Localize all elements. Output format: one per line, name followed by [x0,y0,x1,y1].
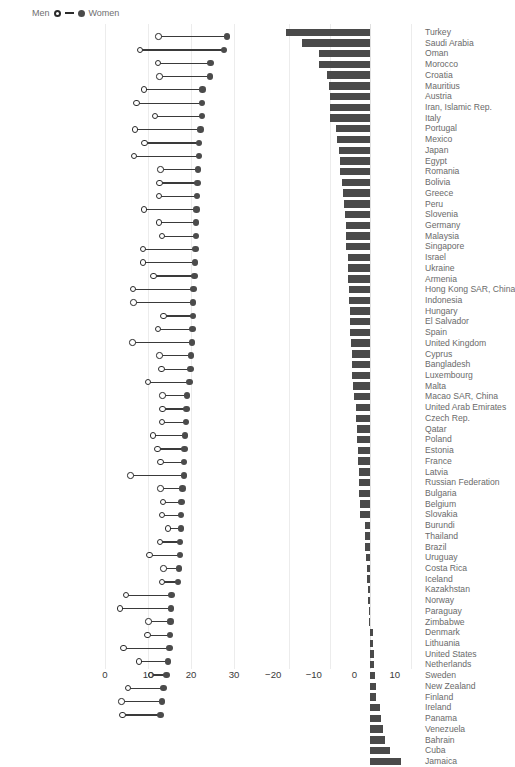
bar[interactable] [369,618,370,625]
bar-row[interactable]: Iceland [273,574,419,585]
bar-row[interactable]: Italy [273,113,419,124]
dumbbell-marker-men[interactable] [157,166,163,172]
dumbbell-marker-men[interactable] [155,326,161,332]
dumbbell-row[interactable]: Thailand [105,708,247,721]
bar[interactable] [360,511,370,518]
dumbbell-row[interactable]: Estonia [105,416,247,429]
dumbbell-marker-women[interactable] [190,286,196,292]
dumbbell-marker-women[interactable] [199,100,205,106]
dumbbell-row[interactable]: Algeria [105,97,247,110]
bar-row[interactable]: Egypt [273,156,419,167]
dumbbell-row[interactable]: Netherlands [105,615,247,628]
bar-row[interactable]: Brazil [273,542,419,553]
bar[interactable] [348,275,370,282]
bar-row[interactable]: Norway [273,595,419,606]
dumbbell-marker-men[interactable] [157,539,163,545]
bar[interactable] [360,500,371,507]
dumbbell-row[interactable]: Qatar [105,655,247,668]
bar-row[interactable]: Zimbabwe [273,617,419,628]
bar[interactable] [329,82,371,89]
dumbbell-row[interactable]: Germany [105,535,247,548]
dumbbell-row[interactable]: Italy [105,203,247,216]
dumbbell-marker-women[interactable] [187,366,193,372]
dumbbell-marker-men[interactable] [159,233,165,239]
bar[interactable] [368,597,370,604]
bar[interactable] [352,350,371,357]
bar-row[interactable]: Paraguay [273,606,419,617]
dumbbell-marker-women[interactable] [195,166,201,172]
dumbbell-marker-men[interactable] [157,459,163,465]
dumbbell-marker-men[interactable] [156,180,162,186]
bar[interactable] [370,758,401,765]
dumbbell-row[interactable]: Guatemala [105,43,247,56]
bar[interactable] [337,136,370,143]
dumbbell-marker-women[interactable] [193,219,199,225]
bar-row[interactable]: Spain [273,327,419,338]
dumbbell-marker-men[interactable] [140,259,146,265]
dumbbell-marker-women[interactable] [176,565,182,571]
bar-row[interactable]: Turkey [273,27,419,38]
dumbbell-row[interactable]: Spain [105,323,247,336]
bar[interactable] [345,211,370,218]
dumbbell-marker-women[interactable] [182,432,188,438]
dumbbell-row[interactable]: Korea, Rep. [105,642,247,655]
dumbbell-marker-women[interactable] [168,592,174,598]
dumbbell-marker-women[interactable] [221,47,227,53]
bar[interactable] [339,147,371,154]
bar-row[interactable]: Israel [273,252,419,263]
bar[interactable] [346,222,371,229]
bar[interactable] [367,575,370,582]
bar[interactable] [350,307,371,314]
bar-row[interactable]: Singapore [273,241,419,252]
bar[interactable] [286,29,370,36]
bar-row[interactable]: Hong Kong SAR, China [273,284,419,295]
dumbbell-marker-women[interactable] [194,193,200,199]
dumbbell-marker-women[interactable] [179,485,185,491]
dumbbell-marker-women[interactable] [192,259,198,265]
bar-row[interactable]: Bahrain [273,735,419,746]
dumbbell-marker-men[interactable] [133,100,139,106]
bar[interactable] [370,715,381,722]
dumbbell-row[interactable]: Finland [105,575,247,588]
bar[interactable] [368,586,370,593]
dumbbell-row[interactable]: Switzerland [105,402,247,415]
bar-row[interactable]: Slovakia [273,509,419,520]
dumbbell-marker-women[interactable] [190,313,196,319]
dumbbell-marker-men[interactable] [132,126,138,132]
dumbbell-marker-women[interactable] [186,379,192,385]
bar-row[interactable]: Macao SAR, China [273,391,419,402]
dumbbell-marker-men[interactable] [155,33,161,39]
bar[interactable] [343,189,371,196]
dumbbell-marker-men[interactable] [165,525,171,531]
dumbbell-marker-women[interactable] [178,512,184,518]
dumbbell-marker-women[interactable] [196,140,202,146]
dumbbell-marker-men[interactable] [136,658,142,664]
bar-row[interactable]: United Arab Emirates [273,402,419,413]
bar[interactable] [342,179,370,186]
dumbbell-marker-women[interactable] [194,180,200,186]
dumbbell-marker-women[interactable] [159,698,165,704]
bar-row[interactable]: Bolivia [273,177,419,188]
dumbbell-marker-women[interactable] [199,86,205,92]
dumbbell-row[interactable]: Austria [105,442,247,455]
bar-row[interactable]: Malta [273,381,419,392]
dumbbell-row[interactable]: Kazakhstan [105,429,247,442]
bar-row[interactable]: Morocco [273,59,419,70]
bar[interactable] [346,243,370,250]
bar-row[interactable]: Czech Rep. [273,413,419,424]
dumbbell-row[interactable]: West Bank & Gaza [105,283,247,296]
bar[interactable] [365,522,371,529]
bar[interactable] [370,640,373,647]
bar[interactable] [319,50,370,57]
bar[interactable] [352,361,370,368]
dumbbell-marker-women[interactable] [207,60,213,66]
dumbbell-row[interactable]: Colombia [105,376,247,389]
dumbbell-row[interactable]: Canada [105,496,247,509]
bar[interactable] [353,382,370,389]
dumbbell-marker-men[interactable] [157,485,163,491]
bar[interactable] [358,457,370,464]
bar-row[interactable]: Saudi Arabia [273,38,419,49]
bar[interactable] [366,554,370,561]
dumbbell-marker-women[interactable] [177,552,183,558]
bar[interactable] [370,704,379,711]
